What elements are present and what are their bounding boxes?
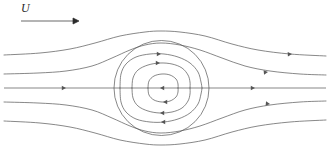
arrow-axis-interior xyxy=(160,86,164,91)
arrow-loop-bottom-middle xyxy=(160,111,164,116)
arrow-axis-downstream xyxy=(251,86,255,91)
arrow-loop-bottom-inner xyxy=(163,100,167,105)
inner-loop-top-middle xyxy=(132,63,190,88)
inner-loop-top-inner xyxy=(148,74,178,88)
streamline-canvas xyxy=(0,0,330,165)
streamline-bottom-inner xyxy=(4,101,326,133)
arrow-axis-upstream xyxy=(62,86,66,91)
inner-loop-bottom-inner xyxy=(148,88,178,102)
freestream-velocity-label: U xyxy=(21,2,30,14)
flow-diagram-figure: U xyxy=(0,0,330,165)
freestream-arrow-group xyxy=(21,18,79,24)
streamline-top-inner xyxy=(4,43,326,75)
arrow-outer-top-right xyxy=(288,52,292,57)
arrow-loop-top-middle xyxy=(156,61,160,66)
outer-streamline-top xyxy=(4,31,326,56)
freestream-velocity-arrow-head xyxy=(73,18,79,24)
arrow-loop-bottom-outer xyxy=(161,120,165,125)
arrow-loop-top-outer xyxy=(157,52,161,57)
inner-loop-bottom-middle xyxy=(132,88,190,113)
